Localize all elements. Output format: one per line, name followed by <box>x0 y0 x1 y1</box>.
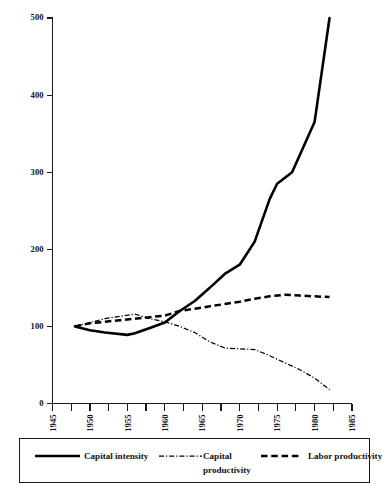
x-tick-label: 1945 <box>48 415 58 432</box>
x-tick-label: 1960 <box>160 415 170 432</box>
x-tick-label: 1975 <box>272 415 282 432</box>
line-chart: 0100200300400500 19451950195519601965197… <box>0 0 389 490</box>
y-tick-label: 200 <box>31 244 44 254</box>
legend-label-capital-productivity: Capital <box>203 451 232 461</box>
chart-background <box>0 0 389 490</box>
legend-label-capital-productivity-line2: productivity <box>203 465 251 475</box>
chart-container: 0100200300400500 19451950195519601965197… <box>0 0 389 490</box>
y-tick-label: 500 <box>31 12 44 22</box>
x-tick-label: 1980 <box>310 415 320 432</box>
y-tick-label: 100 <box>31 321 44 331</box>
x-tick-label: 1965 <box>197 415 207 432</box>
x-tick-label: 1985 <box>347 415 357 432</box>
y-tick-label: 0 <box>39 398 43 408</box>
x-tick-label: 1970 <box>235 415 245 432</box>
legend-label-labor-productivity: Labor productivity <box>308 451 383 461</box>
y-tick-label: 300 <box>31 167 44 177</box>
legend-label-capital-intensity: Capital intensity <box>84 451 149 461</box>
x-tick-label: 1950 <box>85 415 95 432</box>
x-axis-tick-labels: 194519501955196019651970197519801985 <box>48 415 358 432</box>
x-tick-label: 1955 <box>123 415 133 432</box>
y-tick-label: 400 <box>31 90 44 100</box>
